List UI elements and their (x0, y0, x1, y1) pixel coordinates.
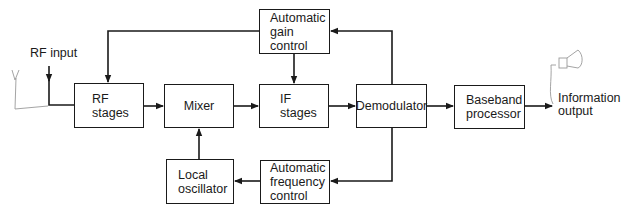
if-stages-label: IF stages (280, 92, 317, 120)
rf-input-label: RF input (30, 47, 77, 60)
rf-stages-block: RF stages (74, 83, 144, 128)
if-stages-block: IF stages (259, 84, 329, 128)
demodulator-label: Demodulator (356, 99, 428, 113)
baseband-processor-block: Baseband processor (454, 85, 525, 129)
mixer-label: Mixer (184, 99, 215, 113)
rf-stages-label: RF stages (92, 92, 129, 120)
automatic-frequency-control-block: Automatic frequency control (260, 160, 330, 204)
afc-label: Automatic frequency control (270, 161, 326, 203)
antenna-icon (12, 70, 48, 109)
local-oscillator-label: Local oscillator (178, 168, 227, 196)
demodulator-block: Demodulator (356, 84, 427, 128)
agc-label: Automatic gain control (270, 11, 326, 53)
baseband-processor-label: Baseband processor (466, 93, 522, 121)
mixer-block: Mixer (164, 84, 234, 128)
information-output-label: Information output (558, 92, 621, 118)
local-oscillator-block: Local oscillator (166, 159, 234, 204)
automatic-gain-control-block: Automatic gain control (259, 9, 330, 54)
